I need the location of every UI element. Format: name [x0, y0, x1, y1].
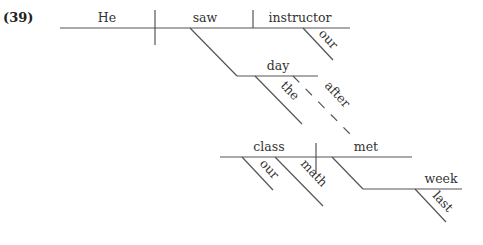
word-week: week [424, 171, 457, 186]
word-our-2: our [257, 156, 283, 182]
word-saw: saw [193, 10, 218, 25]
diagram-svg: (39) He saw instructor our day the after… [0, 0, 483, 245]
word-class: class [253, 139, 284, 154]
word-instructor: instructor [268, 10, 331, 25]
word-after: after [322, 78, 354, 111]
word-he: He [98, 10, 116, 25]
word-day: day [267, 58, 290, 73]
word-last: last [430, 188, 457, 215]
clause-adverbial-diagonal [332, 157, 363, 189]
example-number: (39) [3, 10, 33, 25]
word-our-1: our [316, 26, 342, 52]
word-met: met [354, 139, 378, 154]
sentence-diagram: (39) He saw instructor our day the after… [0, 0, 483, 245]
adverbial-diagonal [190, 28, 237, 76]
